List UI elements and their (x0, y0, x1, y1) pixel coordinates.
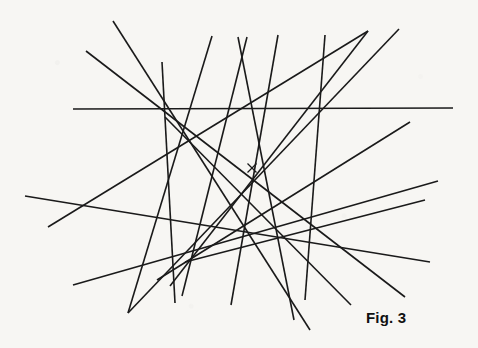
line-17 (165, 117, 351, 305)
figure-container: Fig. 3 (0, 0, 478, 348)
line-04 (25, 196, 430, 262)
line-05 (48, 31, 368, 227)
line-16 (185, 200, 425, 262)
line-08 (162, 62, 175, 303)
line-06 (73, 181, 438, 285)
tangent-lines-diagram (0, 0, 478, 348)
line-13 (305, 35, 325, 300)
line-group (25, 21, 453, 330)
figure-caption: Fig. 3 (366, 309, 406, 326)
line-01 (73, 108, 453, 109)
line-15 (157, 122, 410, 280)
line-10 (238, 37, 294, 320)
